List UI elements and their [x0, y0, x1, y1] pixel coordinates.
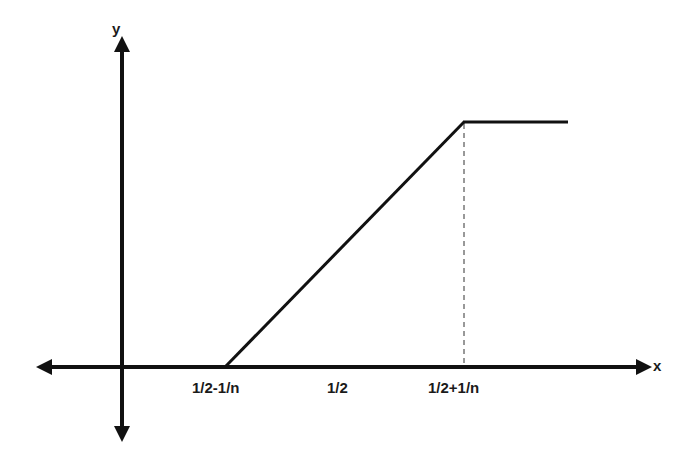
tick-label-right: 1/2+1/n [428, 379, 479, 396]
tick-label-left: 1/2-1/n [192, 379, 240, 396]
tick-label-center: 1/2 [327, 379, 348, 396]
ramp-line [226, 122, 464, 366]
x-axis-label: x [653, 357, 661, 374]
y-axis-label: y [112, 20, 120, 37]
